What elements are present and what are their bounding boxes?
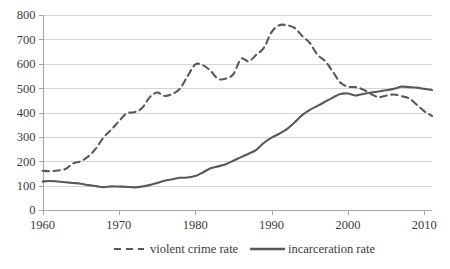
y-axis-tick-label: 800 (17, 8, 36, 22)
x-axis-tick-label: 1980 (183, 218, 208, 232)
x-tick-labels: 196019701980199020002010 (30, 218, 437, 232)
legend-label-violent-crime-rate: violent crime rate (150, 242, 239, 256)
x-axis-tick-label: 2010 (412, 218, 437, 232)
gridlines (43, 16, 433, 211)
y-tick-labels: 0100200300400500600700800 (17, 8, 36, 217)
y-axis (39, 15, 43, 214)
y-axis-tick-label: 700 (17, 33, 36, 47)
y-axis-tick-label: 500 (17, 82, 36, 96)
chart-container: 0100200300400500600700800 19601970198019… (0, 0, 450, 269)
x-axis (43, 211, 433, 215)
y-axis-tick-label: 100 (17, 179, 36, 193)
y-axis-tick-label: 400 (17, 106, 36, 120)
x-axis-tick-label: 1960 (30, 218, 55, 232)
x-axis-tick-label: 1970 (106, 218, 131, 232)
y-axis-tick-label: 600 (17, 57, 36, 71)
y-axis-tick-label: 300 (17, 130, 36, 144)
series-path-violent-crime-rate (43, 25, 433, 172)
y-axis-tick-label: 0 (29, 203, 35, 217)
series-violent-crime-rate (43, 25, 433, 172)
line-chart: 0100200300400500600700800 19601970198019… (0, 0, 450, 269)
x-axis-tick-label: 2000 (335, 218, 360, 232)
x-axis-tick-label: 1990 (259, 218, 284, 232)
chart-legend: violent crime rateincarceration rate (114, 242, 376, 256)
legend-label-incarceration-rate: incarceration rate (288, 242, 376, 256)
y-axis-tick-label: 200 (17, 155, 36, 169)
